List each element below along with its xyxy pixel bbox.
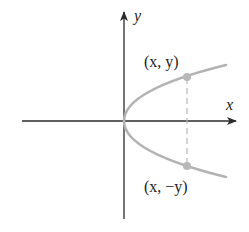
point-lower-label: (x, −y) (144, 178, 188, 196)
point-lower (183, 162, 191, 170)
diagram-canvas: y x (x, y) (x, −y) (0, 0, 249, 232)
point-upper-label: (x, y) (144, 53, 179, 71)
point-upper (183, 73, 191, 81)
x-axis-label: x (225, 96, 233, 113)
y-axis-label: y (132, 7, 142, 25)
